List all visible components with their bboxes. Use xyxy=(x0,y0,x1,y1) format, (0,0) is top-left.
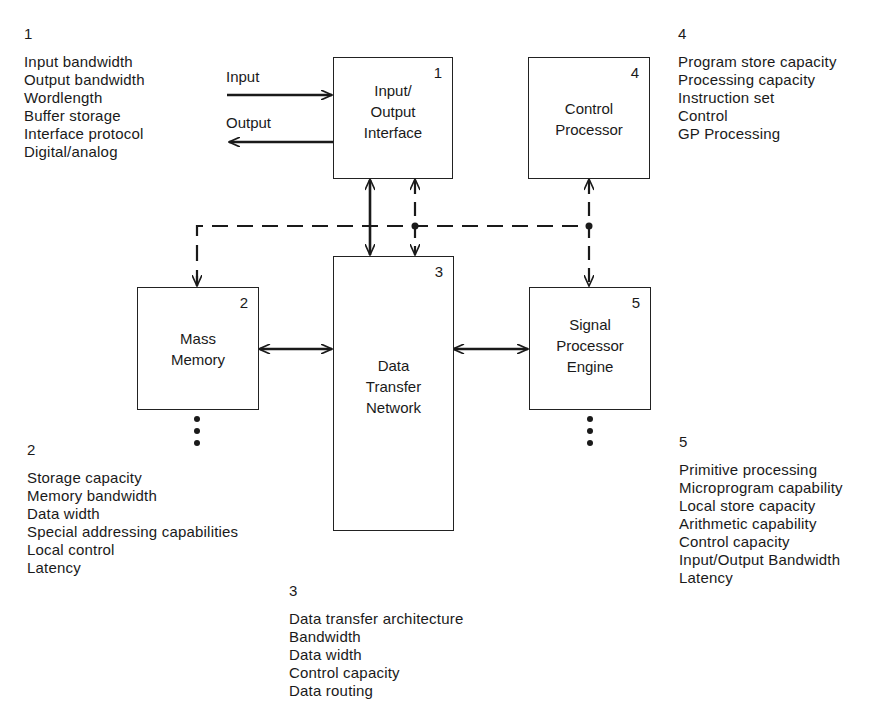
attribute-group-number: 1 xyxy=(24,25,145,43)
attribute-item: Local control xyxy=(27,541,238,559)
mass-memory-block: 2 Mass Memory xyxy=(137,287,259,410)
junction-dot xyxy=(586,223,593,230)
junction-dot xyxy=(412,223,419,230)
attribute-item: Buffer storage xyxy=(24,107,145,125)
attribute-item: Local store capacity xyxy=(679,497,843,515)
attribute-item: Control capacity xyxy=(679,533,843,551)
attribute-item: Microprogram capability xyxy=(679,479,843,497)
attribute-item: Processing capacity xyxy=(678,71,837,89)
signal-processor-engine-block: 5 Signal Processor Engine xyxy=(529,287,651,410)
io-interface-block: 1 Input/ Output Interface xyxy=(333,57,453,179)
attribute-item: Data transfer architecture xyxy=(289,610,463,628)
attribute-item: Storage capacity xyxy=(27,469,238,487)
attribute-item: Wordlength xyxy=(24,89,145,107)
control-processor-block: 4 Control Processor xyxy=(528,57,650,179)
block3-attributes: 3 Data transfer architecture Bandwidth D… xyxy=(289,582,463,700)
block1-attributes: 1 Input bandwidth Output bandwidth Wordl… xyxy=(24,25,145,161)
block-title: Control Processor xyxy=(529,98,649,140)
attribute-item: Data routing xyxy=(289,682,463,700)
input-label: Input xyxy=(226,68,259,85)
block-number: 2 xyxy=(240,294,248,311)
block2-attributes: 2 Storage capacity Memory bandwidth Data… xyxy=(27,441,238,577)
attribute-item: Input/Output Bandwidth xyxy=(679,551,843,569)
attribute-item: Interface protocol xyxy=(24,125,145,143)
attribute-group-number: 5 xyxy=(679,433,843,451)
attribute-item: Latency xyxy=(27,559,238,577)
attribute-item: Control capacity xyxy=(289,664,463,682)
attribute-item: Primitive processing xyxy=(679,461,843,479)
block-number: 5 xyxy=(632,294,640,311)
block4-attributes: 4 Program store capacity Processing capa… xyxy=(678,25,837,143)
attribute-item: Control xyxy=(678,107,837,125)
attribute-item: Output bandwidth xyxy=(24,71,145,89)
attribute-item: Special addressing capabilities xyxy=(27,523,238,541)
attribute-item: Data width xyxy=(27,505,238,523)
block-number: 3 xyxy=(435,263,443,280)
attribute-group-number: 2 xyxy=(27,441,238,459)
block-title: Mass Memory xyxy=(138,328,258,370)
block-title: Input/ Output Interface xyxy=(334,80,452,143)
block-title: Signal Processor Engine xyxy=(530,314,650,377)
output-label: Output xyxy=(226,114,271,131)
attribute-item: Instruction set xyxy=(678,89,837,107)
block-number: 4 xyxy=(631,64,639,81)
block-number: 1 xyxy=(434,64,442,81)
attribute-item: Digital/analog xyxy=(24,143,145,161)
attribute-item: Arithmetic capability xyxy=(679,515,843,533)
attribute-item: Data width xyxy=(289,646,463,664)
attribute-group-number: 3 xyxy=(289,582,463,600)
attribute-item: GP Processing xyxy=(678,125,837,143)
data-transfer-network-block: 3 Data Transfer Network xyxy=(333,256,454,531)
attribute-item: Latency xyxy=(679,569,843,587)
attribute-item: Program store capacity xyxy=(678,53,837,71)
block-title: Data Transfer Network xyxy=(334,355,453,418)
attribute-group-number: 4 xyxy=(678,25,837,43)
attribute-item: Bandwidth xyxy=(289,628,463,646)
block5-attributes: 5 Primitive processing Microprogram capa… xyxy=(679,433,843,587)
attribute-item: Memory bandwidth xyxy=(27,487,238,505)
attribute-item: Input bandwidth xyxy=(24,53,145,71)
